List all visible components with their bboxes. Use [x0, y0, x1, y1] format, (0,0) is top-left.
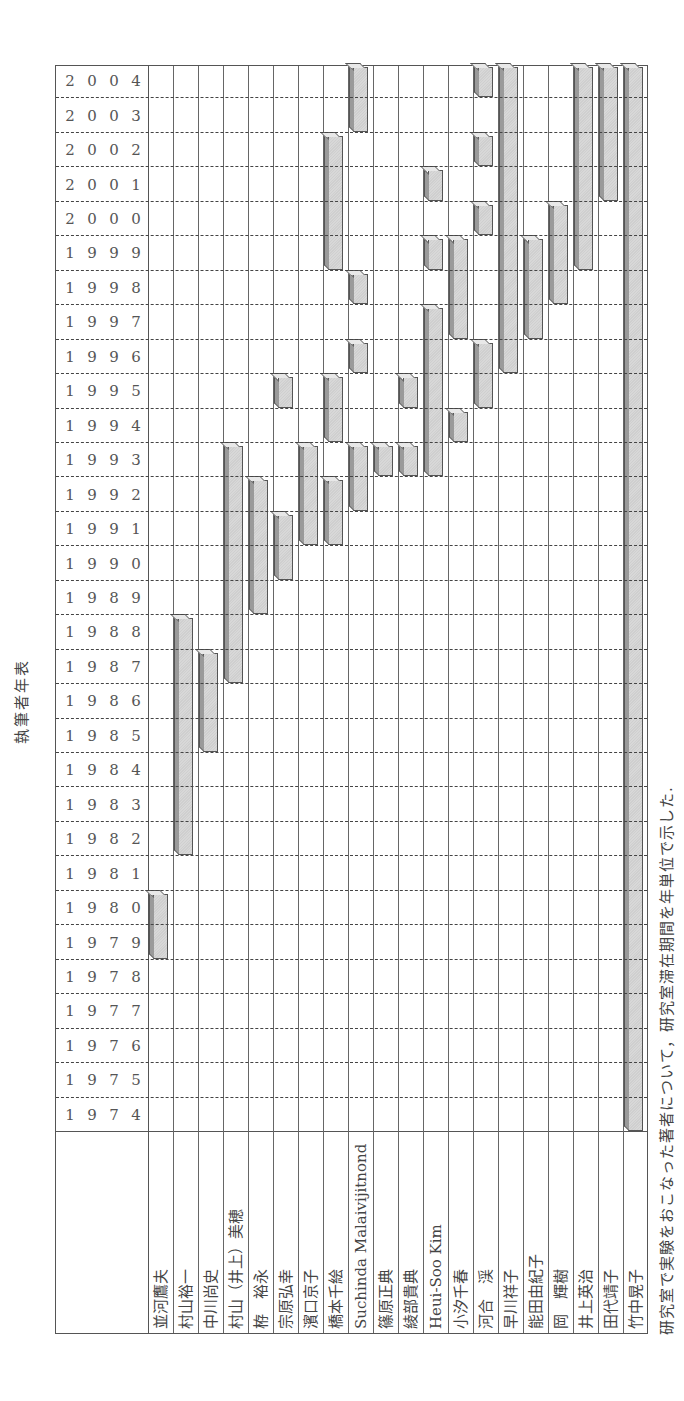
year-digit: 1 [62, 553, 78, 575]
year-digit: 1 [62, 518, 78, 540]
tenure-bar [278, 515, 293, 580]
year-header-cell: 1997 [56, 305, 149, 339]
year-digit: 2 [128, 139, 144, 161]
year-header-cell: 1995 [56, 374, 149, 408]
author-name: 並河鷹夫 [151, 1269, 172, 1329]
year-digit: 1 [62, 1000, 78, 1022]
author-name: 栫 裕永 [251, 1269, 272, 1329]
author-name: 早川祥子 [501, 1269, 522, 1329]
author-name: 能田由紀子 [526, 1254, 547, 1329]
year-digit: 3 [128, 105, 144, 127]
year-gridline [56, 718, 647, 719]
year-digit: 9 [106, 346, 122, 368]
year-gridline [56, 1028, 647, 1029]
tenure-bar [528, 239, 543, 338]
year-header-cell: 1976 [56, 1029, 149, 1063]
tenure-bar [153, 894, 168, 959]
author-name: 岡 輝樹 [551, 1269, 572, 1329]
year-digit: 9 [128, 932, 144, 954]
year-header-cell: 1989 [56, 581, 149, 615]
year-header-cell: 1978 [56, 960, 149, 994]
year-digit: 1 [62, 449, 78, 471]
year-digit: 2 [62, 208, 78, 230]
tenure-bar [353, 343, 368, 373]
year-digit: 8 [128, 621, 144, 643]
year-digit: 7 [128, 311, 144, 333]
year-digit: 6 [128, 1035, 144, 1057]
author-row: 並河鷹夫 [149, 66, 174, 1333]
year-digit: 8 [106, 897, 122, 919]
year-digit: 4 [128, 70, 144, 92]
year-digit: 0 [106, 70, 122, 92]
year-digit: 1 [128, 174, 144, 196]
year-gridline [56, 476, 647, 477]
year-digit: 9 [84, 311, 100, 333]
tenure-bar [353, 274, 368, 304]
year-digit: 1 [62, 277, 78, 299]
author-name: 宗原弘幸 [276, 1269, 297, 1329]
year-digit: 4 [128, 1104, 144, 1126]
year-gridline [56, 855, 647, 856]
author-row: 綾部貴典 [399, 66, 424, 1333]
tenure-bar [378, 446, 393, 476]
author-row: 中川尚史 [199, 66, 224, 1333]
year-digit: 4 [128, 415, 144, 437]
year-digit: 1 [62, 656, 78, 678]
year-digit: 1 [62, 311, 78, 333]
tenure-bar [603, 67, 618, 201]
tenure-bar [453, 412, 468, 442]
year-digit: 9 [84, 277, 100, 299]
year-header-cell: 1987 [56, 650, 149, 684]
year-digit: 1 [62, 932, 78, 954]
tenure-bar [278, 377, 293, 407]
year-digit: 8 [106, 794, 122, 816]
year-digit: 1 [128, 863, 144, 885]
chart-title: 執筆者年表 [10, 0, 31, 1401]
author-timeline-table: 1974197519761977197819791980198119821983… [55, 65, 648, 1334]
year-gridline [56, 511, 647, 512]
year-digit: 1 [62, 484, 78, 506]
author-name: 村山（井上）美穂 [226, 1209, 247, 1329]
year-digit: 9 [84, 1000, 100, 1022]
year-header-cell: 1974 [56, 1098, 149, 1132]
year-gridline [56, 752, 647, 753]
year-digit: 9 [106, 415, 122, 437]
author-name: Suchinda Malaivijitnond [351, 1144, 372, 1329]
year-digit: 1 [62, 1104, 78, 1126]
year-gridline [56, 201, 647, 202]
year-digit: 1 [62, 1035, 78, 1057]
year-gridline [56, 270, 647, 271]
year-gridline [56, 166, 647, 167]
year-header-cell: 1985 [56, 719, 149, 753]
year-digit: 0 [106, 174, 122, 196]
year-digit: 9 [84, 828, 100, 850]
rotated-page: 執筆者年表 1974197519761977197819791980198119… [0, 0, 684, 1401]
year-digit: 7 [106, 1000, 122, 1022]
year-digit: 9 [84, 518, 100, 540]
author-row: Heui-Soo Kim [424, 66, 449, 1333]
author-name: 橋本千絵 [326, 1269, 347, 1329]
author-name: 村山裕一 [176, 1269, 197, 1329]
year-header-cell: 2002 [56, 133, 149, 167]
year-digit: 0 [84, 70, 100, 92]
year-header-cell: 1991 [56, 512, 149, 546]
chart-title-text: 執筆者年表 [13, 659, 31, 744]
author-row: Suchinda Malaivijitnond [349, 66, 374, 1333]
year-header-cell: 1975 [56, 1063, 149, 1097]
year-digit: 0 [84, 174, 100, 196]
year-header-cell: 1984 [56, 753, 149, 787]
year-digit: 9 [84, 484, 100, 506]
year-digit: 9 [106, 518, 122, 540]
year-digit: 1 [62, 794, 78, 816]
year-digit: 9 [84, 966, 100, 988]
author-row: 岡 輝樹 [549, 66, 574, 1333]
year-digit: 8 [106, 828, 122, 850]
year-digit: 7 [106, 1069, 122, 1091]
year-gridline [56, 786, 647, 787]
tenure-bar [428, 170, 443, 200]
year-gridline [56, 993, 647, 994]
year-digit: 9 [84, 932, 100, 954]
figure-caption: 研究室で実験をおこなった著者について，研究室滞在期間を年単位で示した. [655, 786, 676, 1335]
year-digit: 9 [84, 449, 100, 471]
year-gridline [56, 235, 647, 236]
